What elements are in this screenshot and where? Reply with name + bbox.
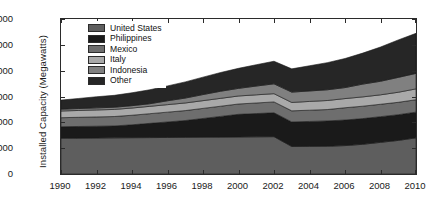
x-axis-tick-label: 2004 (298, 180, 319, 191)
x-axis-tick (61, 19, 62, 23)
x-axis-tick (310, 170, 311, 174)
x-axis-tick (168, 170, 169, 174)
legend-swatch-united-states (88, 24, 105, 32)
x-axis-tick (132, 170, 133, 174)
y-axis-tick (61, 97, 65, 98)
legend-label: Mexico (110, 45, 137, 54)
y-axis-tick (412, 122, 416, 123)
legend-label: Philippines (110, 34, 152, 43)
x-axis-tick-label: 1992 (85, 180, 106, 191)
legend-item[interactable]: Other (88, 76, 162, 86)
chart-legend: United StatesPhilippinesMexicoItalyIndon… (86, 21, 166, 88)
y-axis-tick (412, 148, 416, 149)
x-axis-tick (61, 170, 62, 174)
x-axis-tick (203, 170, 204, 174)
x-axis-tick-label: 2008 (369, 180, 390, 191)
x-axis-tick (415, 170, 416, 174)
legend-swatch-philippines (88, 35, 105, 43)
x-axis-tick (274, 170, 275, 174)
y-axis-tick (61, 174, 65, 175)
x-axis-tick-label: 2010 (404, 180, 425, 191)
legend-item[interactable]: Philippines (88, 34, 162, 44)
y-axis-tick-label: 12,000 (0, 13, 13, 24)
y-axis-tick-label: 8,000 (0, 64, 13, 75)
x-axis-tick (97, 170, 98, 174)
legend-label: Other (110, 76, 132, 85)
x-axis-tick-label: 1996 (156, 180, 177, 191)
x-axis-tick-label: 2000 (227, 180, 248, 191)
x-axis-tick-label: 1994 (120, 180, 141, 191)
legend-item[interactable]: Mexico (88, 44, 162, 54)
legend-swatch-indonesia (88, 66, 105, 74)
x-axis-tick (310, 19, 311, 23)
x-axis-tick (345, 19, 346, 23)
y-axis-tick (61, 122, 65, 123)
x-axis-tick (381, 170, 382, 174)
x-axis-tick (203, 19, 204, 23)
x-axis-tick (381, 19, 382, 23)
x-axis-tick (239, 170, 240, 174)
x-axis-tick-label: 2002 (262, 180, 283, 191)
y-axis-tick (61, 45, 65, 46)
chart-figure: Installed Capacity (Megawatts) 02,0004,0… (0, 0, 434, 209)
x-axis-tick (345, 170, 346, 174)
x-axis-tick (415, 19, 416, 23)
y-axis-tick-label: 10,000 (0, 38, 13, 49)
y-axis-tick (412, 97, 416, 98)
x-axis-tick-label: 2006 (333, 180, 354, 191)
y-axis-title: Installed Capacity (Megawatts) (37, 7, 48, 197)
y-axis-tick-label: 6,000 (0, 90, 13, 101)
y-axis-tick (61, 148, 65, 149)
x-axis-tick-label: 1998 (191, 180, 212, 191)
y-axis-tick-label: 2,000 (0, 142, 13, 153)
y-axis-tick (412, 45, 416, 46)
legend-label: United States (110, 24, 162, 33)
x-axis-tick (239, 19, 240, 23)
x-axis-tick (274, 19, 275, 23)
legend-label: Italy (110, 55, 126, 64)
legend-swatch-italy (88, 56, 105, 64)
legend-item[interactable]: Indonesia (88, 65, 162, 75)
y-axis-tick (412, 71, 416, 72)
y-axis-tick-label: 4,000 (0, 116, 13, 127)
legend-item[interactable]: Italy (88, 55, 162, 65)
legend-label: Indonesia (110, 66, 147, 75)
y-axis-tick (61, 71, 65, 72)
y-axis-tick-label: 0 (8, 168, 13, 179)
y-axis-tick (412, 174, 416, 175)
legend-swatch-other (88, 77, 105, 85)
legend-item[interactable]: United States (88, 23, 162, 33)
legend-swatch-mexico (88, 45, 105, 53)
x-axis-tick (168, 19, 169, 23)
x-axis-tick-label: 1990 (49, 180, 70, 191)
